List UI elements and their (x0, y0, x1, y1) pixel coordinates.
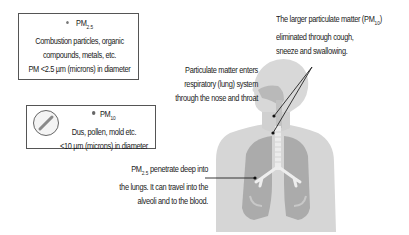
pm25-title-text: PM (76, 18, 86, 28)
pm10-title-sub: 10 (110, 115, 115, 121)
pm25-info-box: PM2.5 Combustion particles, organic comp… (18, 13, 139, 80)
elimination-note: The larger particulate matter (PM10) eli… (276, 12, 405, 58)
pm10-title: PM10 (53, 107, 154, 125)
particle-dot-icon (92, 111, 95, 115)
pm25-title: PM2.5 (21, 16, 139, 34)
lung-line1-post: penetrate deep into (148, 164, 208, 174)
elimination-line2: eliminated through cough, (276, 30, 405, 44)
small-particle-dot-icon (66, 21, 69, 24)
pm25-line3: PM <2.5 µm (microns) in diameter (21, 62, 139, 76)
pm25-line1: Combustion particles, organic (21, 34, 139, 48)
elimination-line3: sneeze and swallowing. (276, 44, 405, 58)
pm10-line1: Dus, pollen, mold etc. (53, 125, 154, 139)
lung-line1: PM2.5 penetrate deep into (96, 162, 208, 180)
entry-note: Particulate matter enters respiratory (l… (146, 63, 258, 105)
lung-line2: the lungs. It can travel into the (96, 180, 208, 194)
elimination-line1-post: ) (380, 14, 382, 24)
entry-line1: Particulate matter enters (146, 63, 258, 77)
lung-penetration-note: PM2.5 penetrate deep into the lungs. It … (96, 162, 208, 208)
lung-line1-text: PM (131, 164, 141, 174)
pm25-line2: compounds, metals, etc. (21, 48, 139, 62)
pm10-line2: <10 µm (microns) in diameter (53, 139, 154, 153)
pm10-title-text: PM (100, 109, 110, 119)
airway (276, 100, 282, 128)
elimination-line1: The larger particulate matter (PM10) (276, 12, 405, 30)
lung-line3: alveoli and to the blood. (96, 194, 208, 208)
entry-line3: through the nose and throat (146, 91, 258, 105)
trachea (275, 126, 281, 170)
elimination-line1-text: The larger particulate matter (PM (276, 14, 375, 24)
pm10-info-box: PM10 Dus, pollen, mold etc. <10 µm (micr… (26, 105, 156, 149)
entry-line2: respiratory (lung) system (146, 77, 258, 91)
pm25-title-sub: 2.5 (87, 24, 94, 30)
